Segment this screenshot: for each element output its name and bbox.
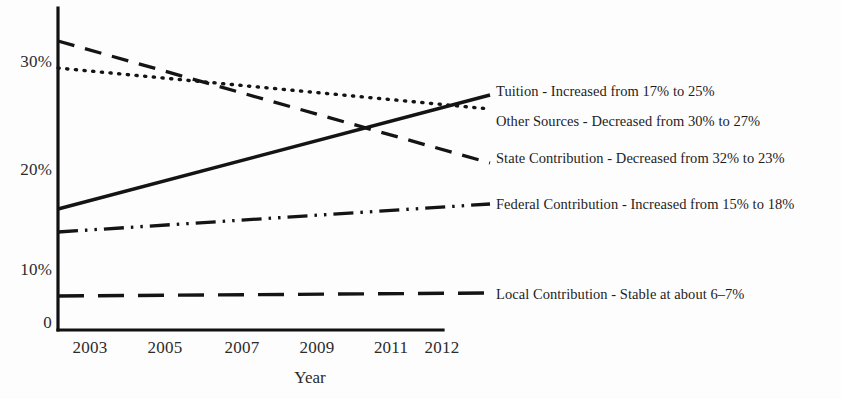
x-tick-label-2007: 2007 — [214, 338, 270, 358]
y-tick-label-30: 30% — [4, 52, 52, 72]
series-label-local-contribution: Local Contribution - Stable at about 6–7… — [496, 286, 745, 303]
series-label-tuition: Tuition - Increased from 17% to 25% — [496, 83, 715, 100]
series-line-state-contribution — [58, 41, 490, 163]
x-tick-label-2003: 2003 — [62, 338, 118, 358]
series-line-local-contribution — [58, 293, 490, 296]
series-label-other-sources: Other Sources - Decreased from 30% to 27… — [496, 113, 760, 130]
x-tick-label-2005: 2005 — [137, 338, 193, 358]
x-tick-label-2009: 2009 — [289, 338, 345, 358]
series-label-federal-contribution: Federal Contribution - Increased from 15… — [496, 196, 794, 213]
series-line-tuition — [58, 95, 490, 209]
y-tick-label-20: 20% — [4, 160, 52, 180]
y-tick-label-0: 0 — [4, 313, 52, 333]
x-axis-title: Year — [262, 368, 358, 388]
x-tick-label-2012: 2012 — [414, 338, 470, 358]
series-label-state-contribution: State Contribution - Decreased from 32% … — [496, 150, 785, 167]
series-line-federal-contribution — [58, 204, 490, 232]
x-tick-label-2011: 2011 — [363, 338, 419, 358]
y-tick-label-10: 10% — [4, 260, 52, 280]
chart-page: 30% 20% 10% 0 2003 2005 2007 2009 2011 2… — [0, 0, 841, 399]
chart-series — [58, 41, 490, 296]
